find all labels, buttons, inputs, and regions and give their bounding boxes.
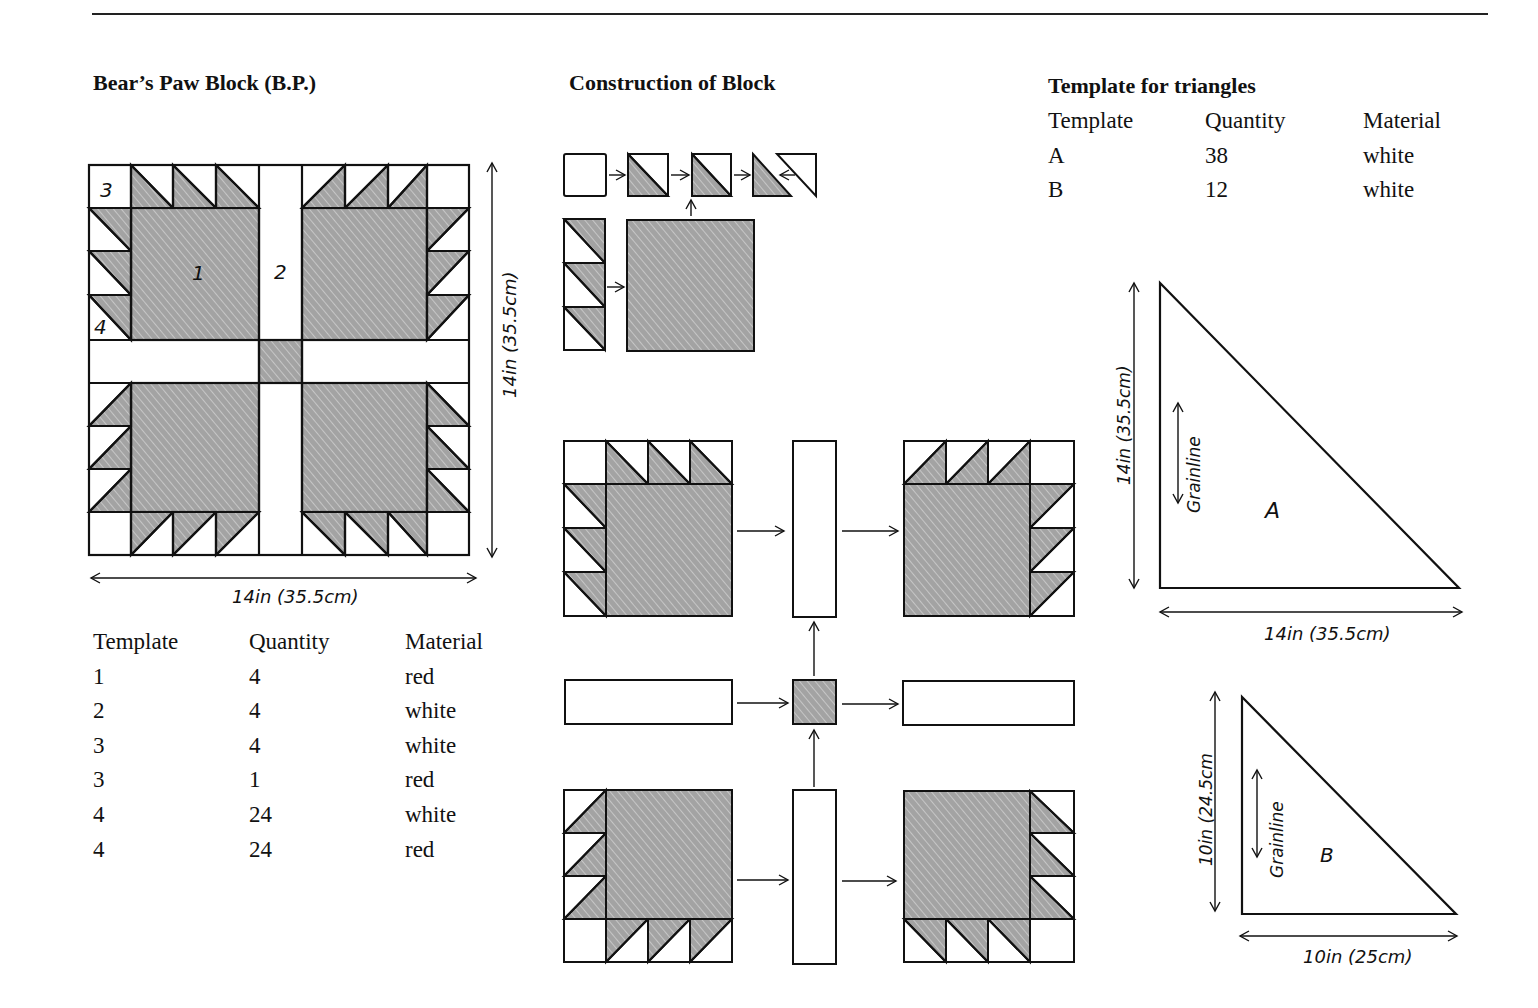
diagram-canvas: 3 1 2 4 14in (35.5cm) 14in (35.5cm) xyxy=(0,0,1538,1008)
triangle-b-label: B xyxy=(1320,843,1334,867)
piece-3-label: 3 xyxy=(100,178,113,202)
piece-1-label: 1 xyxy=(192,261,205,285)
piece-4-label: 4 xyxy=(94,315,107,339)
triangle-a-template: Grainline A 14in (35.5cm) 14in (35.5cm) xyxy=(1114,283,1462,644)
triangle-a-label: A xyxy=(1263,498,1280,523)
triangle-a-width-label: 14in (35.5cm) xyxy=(1264,623,1391,644)
triangle-b-width-label: 10in (25cm) xyxy=(1303,946,1412,967)
triangle-b-grainline-label: Grainline xyxy=(1267,801,1287,878)
bears-paw-block xyxy=(89,165,469,555)
triangle-a-height-label: 14in (35.5cm) xyxy=(1114,365,1134,485)
block-width-label: 14in (35.5cm) xyxy=(232,586,359,607)
triangle-b-height-label: 10in (24.5cm xyxy=(1196,753,1216,866)
block-height-label: 14in (35.5cm) xyxy=(499,271,520,398)
triangle-b-template: Grainline B 10in (24.5cm 10in (25cm) xyxy=(1196,692,1457,967)
construction-steps xyxy=(564,154,1074,964)
piece-2-label: 2 xyxy=(274,260,287,284)
triangle-a-grainline-label: Grainline xyxy=(1184,436,1204,513)
